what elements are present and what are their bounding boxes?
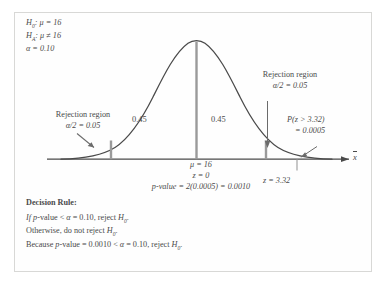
x-bar-symbol: x bbox=[353, 152, 357, 162]
decision-rule-line-1: If p-value < α = 0.10, reject H0. bbox=[26, 214, 182, 224]
tail-probability-arrow bbox=[301, 147, 318, 158]
tail-probability-value: = 0.0005 bbox=[295, 127, 325, 136]
left-rejection-arrow bbox=[77, 134, 94, 148]
left-rejection-region-title: Rejection region bbox=[41, 111, 125, 120]
test-statistic-label: z = 3.32 bbox=[263, 177, 290, 186]
decision-rule-block: Decision Rule: If p-value < α = 0.10, re… bbox=[26, 199, 182, 255]
right-rejection-arrow bbox=[265, 101, 271, 148]
statistics-figure-panel: H0: μ = 16 HA: μ ≠ 16 α = 0.10 bbox=[14, 12, 372, 272]
x-axis-label: x bbox=[353, 153, 357, 162]
left-rejection-region-label: Rejection region α/2 = 0.05 bbox=[41, 111, 125, 130]
right-rejection-region-value: α/2 = 0.05 bbox=[247, 82, 333, 91]
x-axis-arrowhead bbox=[341, 156, 349, 162]
tail-probability-label: P(z > 3.32) = 0.0005 bbox=[287, 116, 325, 135]
right-area-label: 0.45 bbox=[211, 116, 226, 125]
left-rejection-region-value: α/2 = 0.05 bbox=[41, 122, 125, 131]
decision-rule-title: Decision Rule: bbox=[26, 199, 182, 208]
decision-rule-line-2: Otherwise, do not reject H0. bbox=[26, 227, 182, 237]
right-rejection-region-title: Rejection region bbox=[247, 71, 333, 80]
tail-probability-expression: P(z > 3.32) bbox=[287, 116, 325, 125]
mean-value-label: μ = 16 bbox=[110, 161, 292, 170]
left-area-label: 0.45 bbox=[132, 116, 147, 125]
decision-rule-line-3: Because p-value = 0.0010 < α = 0.10, rej… bbox=[26, 241, 182, 251]
right-rejection-region-label: Rejection region α/2 = 0.05 bbox=[247, 71, 333, 90]
